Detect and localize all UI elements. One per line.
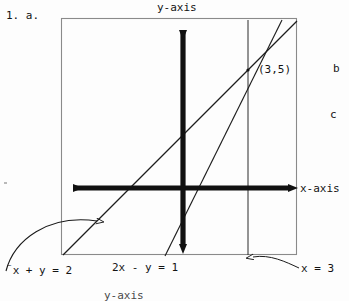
callout-arrow-equation-3 xyxy=(253,256,299,268)
graph-canvas xyxy=(0,0,349,301)
y-axis-label-bottom: y-axis xyxy=(104,289,144,301)
part-b-label: b xyxy=(333,62,340,75)
intersection-point-label: (3,5) xyxy=(258,63,291,76)
part-c-label: c xyxy=(330,108,337,121)
problem-number-label: 1. a. xyxy=(6,9,39,22)
y-axis-label-top: y-axis xyxy=(157,1,197,14)
x-axis-label-right: x-axis xyxy=(300,182,340,195)
line-minus-x-plus-y-equals-2 xyxy=(63,21,297,255)
worksheet-graph-page: 1. a. y-axis x-axis (3,5) ⁻x + y = 2 2x … xyxy=(0,0,349,301)
equation-2-label: 2x - y = 1 xyxy=(112,261,178,274)
graph-frame-box xyxy=(62,19,297,255)
equation-1-leading-minus: ⁻ xyxy=(6,261,13,274)
intersection-point-marker xyxy=(246,68,249,71)
equation-1-text: x + y = 2 xyxy=(13,264,73,277)
equation-1-label: ⁻x + y = 2 xyxy=(6,261,72,277)
scan-speck-left xyxy=(4,182,7,184)
equation-3-label: x = 3 xyxy=(301,262,334,275)
